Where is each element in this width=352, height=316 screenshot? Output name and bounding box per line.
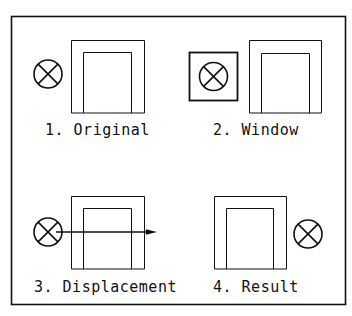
displacement-diagram: 1. Original 2. Window [0, 0, 352, 316]
outer-frame [12, 17, 346, 305]
panel-label-original: 1. Original [45, 121, 150, 139]
doorway-frame-icon [72, 41, 145, 114]
circle-with-x-icon [294, 220, 322, 248]
doorway-frame-icon [250, 41, 322, 114]
panel-original: 1. Original [34, 41, 150, 140]
panel-label-window: 2. Window [213, 121, 299, 139]
panel-window: 2. Window [190, 41, 322, 140]
circle-with-x-icon [200, 63, 228, 91]
doorway-frame-icon [215, 197, 287, 270]
panel-label-result: 4. Result [213, 278, 299, 296]
panel-result: 4. Result [213, 197, 322, 297]
panel-displacement: 3. Displacement [34, 197, 177, 297]
circle-with-x-icon [34, 60, 62, 88]
panel-label-displacement: 3. Displacement [34, 278, 177, 296]
